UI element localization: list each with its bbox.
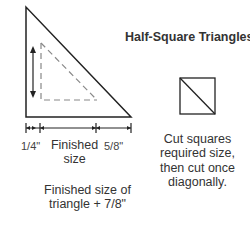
extra-allowance-label: 5/8" [104, 140, 123, 153]
diagram-title: Half-Square Triangles [125, 30, 250, 44]
seam-allowance-label: 1/4" [21, 140, 40, 153]
vertical-double-arrow-icon [30, 46, 36, 98]
dimension-line [26, 123, 131, 133]
cut-instructions: Cut squares required size, then cut once… [150, 132, 245, 190]
finished-size-label: Finished size [47, 138, 102, 167]
total-size-formula: Finished size of triangle + 7/8" [30, 183, 145, 212]
square-diagonal-icon [180, 78, 215, 114]
